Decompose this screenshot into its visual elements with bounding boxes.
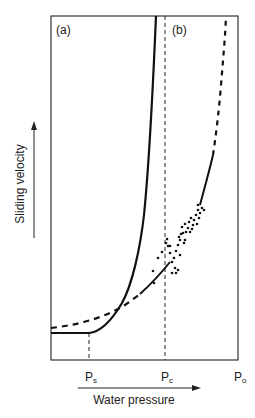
x-axis-label: Water pressure bbox=[93, 393, 175, 407]
plot-frame bbox=[51, 16, 238, 360]
chart: (a) (b) Sliding velocity Ps Pc Po Water … bbox=[0, 0, 255, 418]
observation-points bbox=[152, 204, 206, 285]
x-axis-arrowhead-icon bbox=[192, 385, 201, 391]
y-axis-arrowhead-icon bbox=[31, 121, 37, 130]
curve-b-solid-upper bbox=[200, 155, 213, 205]
tick-po: Po bbox=[234, 370, 247, 385]
curve-a-solid bbox=[51, 16, 156, 333]
curve-b-dashed-upper bbox=[213, 16, 226, 155]
tick-pc: Pc bbox=[161, 370, 173, 385]
panel-label-b: (b) bbox=[172, 23, 187, 37]
y-axis-label: Sliding velocity bbox=[13, 144, 27, 223]
tick-ps: Ps bbox=[85, 370, 97, 385]
panel-label-a: (a) bbox=[56, 23, 71, 37]
curve-b-dashed-lower bbox=[51, 294, 140, 328]
